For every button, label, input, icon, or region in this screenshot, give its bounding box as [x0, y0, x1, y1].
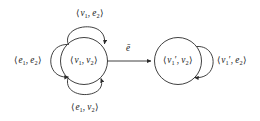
- bracket-close-icon: ⟩: [38, 55, 42, 65]
- bracket-close-icon: ⟩: [100, 8, 104, 18]
- edge-bottom-loop-label: ⟨e1, v2⟩: [71, 103, 98, 112]
- node-v1primev2-label: ⟨v1′, v2⟩: [163, 56, 192, 65]
- edge-left-loop-label: ⟨e1, e2⟩: [14, 56, 41, 65]
- edge-right-loop-path: [195, 46, 214, 77]
- subscript-1: 1: [225, 59, 228, 66]
- subscript-1: 1: [23, 59, 26, 66]
- bracket-close-icon: ⟩: [95, 102, 99, 112]
- subscript-1: 1: [85, 12, 88, 19]
- edge-left-loop-path: [51, 44, 69, 77]
- subscript-2: 2: [91, 106, 94, 113]
- subscript-2: 2: [185, 59, 188, 66]
- edge-transition-label: ē: [126, 44, 130, 53]
- subscript-2: 2: [96, 12, 99, 19]
- bracket-close-icon: ⟩: [189, 55, 193, 65]
- subscript-2: 2: [90, 59, 93, 66]
- edge-top-loop-path: [67, 27, 104, 45]
- edge-top-loop-label: ⟨v1, e2⟩: [76, 9, 103, 18]
- subscript-1: 1: [171, 59, 174, 66]
- bracket-close-icon: ⟩: [94, 55, 98, 65]
- node-v1v2-label: ⟨v1, v2⟩: [70, 56, 97, 65]
- diagram-canvas: ⟨v1, e2⟩ ⟨e1, e2⟩ ⟨e1, v2⟩ ē ⟨v1, v2⟩ ⟨v…: [0, 0, 260, 121]
- subscript-1: 1: [80, 106, 83, 113]
- edge-right-loop-label: ⟨v1′, e2⟩: [217, 56, 246, 65]
- bracket-close-icon: ⟩: [243, 55, 247, 65]
- subscript-1: 1: [79, 59, 82, 66]
- subscript-2: 2: [34, 59, 37, 66]
- subscript-2: 2: [239, 59, 242, 66]
